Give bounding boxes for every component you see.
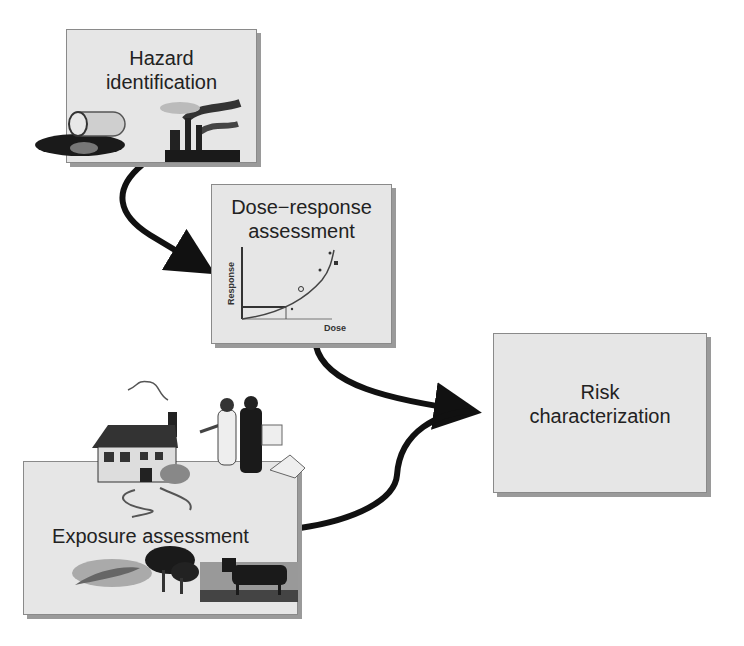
node-hazard-identification: Hazard identification <box>66 29 257 163</box>
node-exposure-assessment: Exposure assessment <box>23 461 298 615</box>
risk-title-line1: Risk <box>494 380 706 404</box>
arrow-dose-to-risk <box>316 346 470 411</box>
hazard-title-line1: Hazard <box>67 46 256 70</box>
hazard-title-line2: identification <box>67 70 256 94</box>
node-dose-response-assessment: Dose−response assessment Response Dose <box>211 184 392 344</box>
chart-ylabel: Response <box>226 262 236 305</box>
dose-response-curve-chart: Response Dose <box>212 185 393 345</box>
node-risk-characterization: Risk characterization <box>493 333 707 493</box>
exposure-title: Exposure assessment <box>24 524 297 548</box>
chart-xlabel: Dose <box>324 323 346 333</box>
arrow-hazard-to-dose <box>122 165 205 268</box>
risk-title-line2: characterization <box>494 404 706 428</box>
arrow-exposure-to-risk <box>300 411 470 528</box>
